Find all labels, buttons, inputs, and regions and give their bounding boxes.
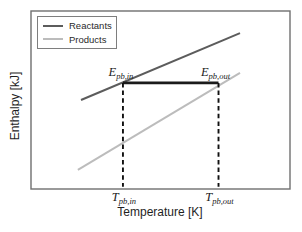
label-e-out-base: E	[201, 65, 209, 79]
label-t-out-sub: pb,out	[212, 196, 234, 206]
figure-canvas: Reactants Products Epb,in Epb,out Tpb,in…	[0, 0, 302, 232]
label-e-in: Epb,in	[108, 66, 133, 81]
label-t-in-base: T	[112, 190, 119, 204]
x-axis-label: Temperature [K]	[117, 205, 202, 219]
legend-label-products: Products	[69, 35, 107, 45]
label-e-out: Epb,out	[201, 66, 230, 81]
label-e-out-sub: pb,out	[209, 71, 231, 81]
label-t-out-base: T	[205, 190, 212, 204]
legend: Reactants Products	[37, 16, 117, 49]
series-line-products	[78, 73, 240, 170]
y-axis-label: Enthalpy [kJ]	[8, 72, 22, 141]
label-e-in-sub: pb,in	[116, 71, 133, 81]
legend-swatch-products	[43, 38, 63, 40]
legend-label-reactants: Reactants	[69, 21, 112, 31]
label-e-in-base: E	[108, 65, 116, 79]
label-t-out: Tpb,out	[205, 191, 233, 206]
legend-item-products: Products	[43, 35, 116, 45]
legend-item-reactants: Reactants	[43, 21, 116, 31]
legend-swatch-reactants	[43, 25, 63, 27]
